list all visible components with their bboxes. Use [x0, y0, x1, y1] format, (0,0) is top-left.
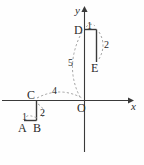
length-label-od: 5 — [68, 58, 73, 68]
point-label-e: E — [91, 62, 98, 74]
length-label-ab: 1 — [22, 112, 27, 122]
arc-od-5 — [72, 32, 82, 97]
point-label-d: D — [74, 24, 83, 36]
point-label-c: C — [27, 89, 35, 101]
arc-ab-1 — [26, 116, 37, 118]
y-axis-label: y — [75, 5, 80, 16]
geometry-figure — [0, 0, 144, 165]
length-label-co: 4 — [52, 86, 57, 96]
length-label-de-top: 1 — [87, 21, 92, 31]
x-axis — [2, 97, 134, 103]
point-label-b: B — [33, 122, 41, 134]
arc-co-4 — [37, 92, 82, 98]
x-axis-label: x — [131, 101, 136, 112]
polyline-de — [84, 30, 97, 63]
figure-canvas: A B C D E O x y 1 2 4 1 2 5 — [0, 0, 144, 165]
arc-de-2 — [99, 32, 103, 59]
origin-label: O — [77, 102, 86, 114]
length-label-bc: 2 — [40, 108, 45, 118]
length-label-de-side: 2 — [104, 40, 109, 50]
y-axis-arrowhead — [81, 6, 87, 12]
point-label-a: A — [18, 122, 27, 134]
